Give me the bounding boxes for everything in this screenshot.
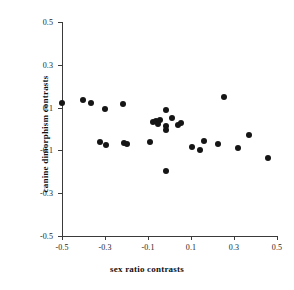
data-point [147,139,153,145]
data-point [197,147,203,153]
y-tick-label: 0.5 [43,18,53,27]
data-point [163,127,169,133]
data-point [221,94,227,100]
plot-area: -0.5-0.3-0.10.10.30.5 -0.5-0.3-0.10.10.3… [62,22,277,236]
data-point [103,142,109,148]
x-tick-mark: 0.5 [277,236,278,240]
data-point [178,120,184,126]
x-tick-mark: -0.1 [148,236,149,240]
data-point [246,132,252,138]
x-axis-line [62,236,278,237]
data-point [163,107,169,113]
x-tick-label: 0.3 [229,243,239,252]
data-point [265,155,271,161]
x-tick-mark: 0.3 [234,236,235,240]
data-point [189,144,195,150]
y-tick-mark: 0.5 [58,22,62,23]
data-point [120,101,126,107]
scatter-plot-figure: -0.5-0.3-0.10.10.30.5 -0.5-0.3-0.10.10.3… [0,0,294,290]
y-tick-mark: -0.1 [58,150,62,151]
x-tick-label: -0.5 [55,243,68,252]
y-tick-mark: 0.1 [58,108,62,109]
x-tick-mark: 0.1 [191,236,192,240]
data-point [201,138,207,144]
data-point [102,106,108,112]
x-tick-label: -0.1 [141,243,154,252]
data-point [169,115,175,121]
y-tick-mark: 0.3 [58,65,62,66]
y-tick-mark: -0.3 [58,193,62,194]
data-point [157,117,163,123]
data-point [215,141,221,147]
x-tick-mark: -0.3 [105,236,106,240]
data-point [80,97,86,103]
data-point [59,100,65,106]
x-tick-mark: -0.5 [62,236,63,240]
data-point [163,168,169,174]
data-point [235,145,241,151]
x-tick-label: -0.3 [98,243,111,252]
x-tick-label: 0.1 [186,243,196,252]
x-tick-label: 0.5 [272,243,282,252]
x-axis-title: sex ratio contrasts [0,264,294,274]
y-axis-title: canine dimorphism contrasts [40,27,50,241]
data-point [124,141,130,147]
data-point [88,100,94,106]
